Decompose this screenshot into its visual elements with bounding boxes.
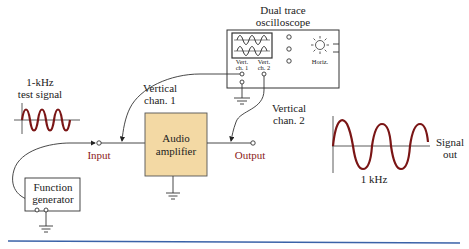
test-signal-line2: test signal <box>18 88 62 100</box>
test-signal: 1-kHz test signal <box>14 76 80 134</box>
generator-output-terminal[interactable] <box>35 208 39 212</box>
signal-out: 1 kHz Signal out <box>332 116 464 185</box>
signal-out-line2: out <box>443 148 457 160</box>
vertical-chan1-line1: Vertical <box>143 82 177 94</box>
knob-icon[interactable] <box>287 35 291 39</box>
bottom-rule <box>8 241 460 243</box>
ch2-terminal[interactable] <box>262 72 266 76</box>
input-terminal[interactable] <box>97 141 101 145</box>
vertical-chan2-line2: chan. 2 <box>273 114 305 126</box>
oscilloscope-title-line2: oscilloscope <box>256 16 310 28</box>
input-label: Input <box>87 149 110 161</box>
ground-icon <box>166 193 180 199</box>
vertical-chan2-line1: Vertical <box>272 102 306 114</box>
function-generator-line2: generator <box>32 193 74 205</box>
knob-icon[interactable] <box>287 47 291 51</box>
generator-ground-terminal[interactable] <box>44 208 48 212</box>
ground-terminal[interactable] <box>240 80 244 84</box>
oscilloscope: Dual trace oscilloscope Vert. ch. 1 Vert… <box>227 4 339 104</box>
signal-out-line1: Signal <box>436 136 464 148</box>
test-setup-diagram: Dual trace oscilloscope Vert. ch. 1 Vert… <box>0 0 469 249</box>
signal-out-waveform <box>333 120 428 169</box>
ch1-terminal[interactable] <box>240 72 244 76</box>
vertical-chan1-line2: chan. 1 <box>144 94 176 106</box>
output-terminal[interactable] <box>251 141 255 145</box>
ch1-label-line2: ch. 1 <box>236 64 249 71</box>
ground-icon <box>39 226 53 232</box>
ch2-label-line2: ch. 2 <box>258 64 271 71</box>
ground-icon <box>234 98 250 104</box>
output-label: Output <box>235 149 266 161</box>
signal-out-frequency: 1 kHz <box>361 173 388 185</box>
horiz-label: Horiz. <box>312 58 329 65</box>
knob-icon[interactable] <box>287 59 291 63</box>
amplifier-line2: amplifier <box>156 145 197 157</box>
test-signal-line1: 1-kHz <box>26 76 54 88</box>
oscilloscope-title-line1: Dual trace <box>260 4 306 16</box>
function-generator-line1: Function <box>33 181 73 193</box>
amplifier-line1: Audio <box>162 132 190 144</box>
test-signal-waveform <box>22 110 70 131</box>
